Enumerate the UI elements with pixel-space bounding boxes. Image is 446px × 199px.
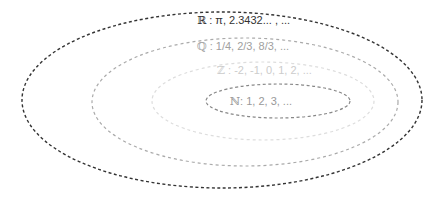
- natural-symbol: ℕ: [230, 95, 240, 108]
- ellipses-layer: [0, 0, 446, 199]
- real-set-label: ℝ : π, 2.3432... , ...: [197, 14, 290, 27]
- real-examples: : π, 2.3432... , ...: [206, 14, 290, 26]
- integer-set-label: ℤ : -2, -1, 0, 1, 2, ...: [217, 64, 312, 77]
- natural-set-label: ℕ: 1, 2, 3, ...: [230, 95, 292, 108]
- rational-examples: : 1/4, 2/3, 8/3, ...: [207, 40, 290, 52]
- rational-set-label: ℚ : 1/4, 2/3, 8/3, ...: [197, 40, 289, 53]
- integer-symbol: ℤ: [217, 64, 225, 77]
- natural-examples: : 1, 2, 3, ...: [240, 95, 292, 107]
- real-symbol: ℝ: [197, 14, 206, 27]
- integer-examples: : -2, -1, 0, 1, 2, ...: [225, 64, 312, 76]
- real-set-ellipse: [22, 12, 422, 188]
- rational-symbol: ℚ: [197, 40, 207, 53]
- number-sets-diagram: ℝ : π, 2.3432... , ... ℚ : 1/4, 2/3, 8/3…: [0, 0, 446, 199]
